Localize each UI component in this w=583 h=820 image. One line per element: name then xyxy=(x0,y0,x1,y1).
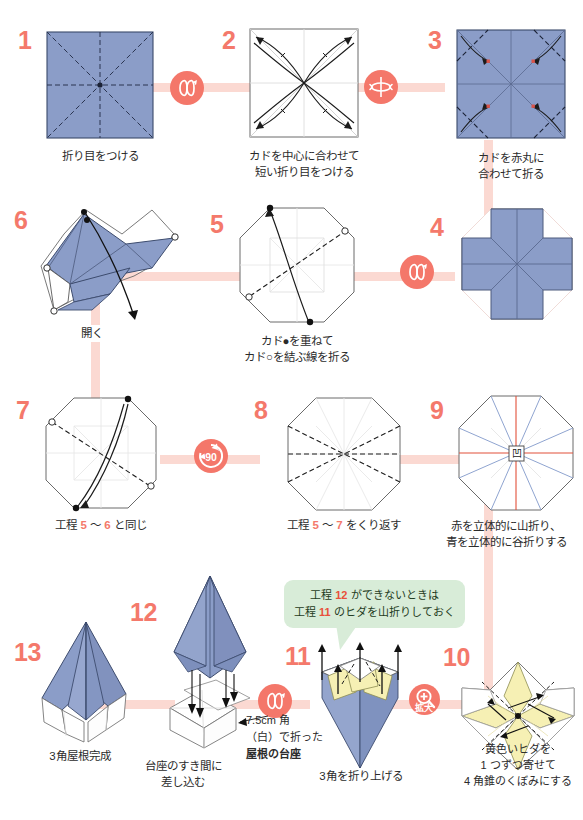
step-number-5: 5 xyxy=(210,212,223,237)
step-7-caption: 工程 5 〜 6 と同じ xyxy=(36,517,166,534)
step-7-figure xyxy=(36,392,166,520)
step-1-figure xyxy=(45,30,155,140)
step-number-6: 6 xyxy=(14,208,27,233)
step-11-caption: 3角を折り上げる xyxy=(296,768,426,785)
diagram-canvas: 1 折り目をつける 2 xyxy=(0,0,583,820)
svg-text:凹: 凹 xyxy=(512,448,522,459)
step-number-9: 9 xyxy=(430,398,443,423)
step-number-8: 8 xyxy=(254,398,267,423)
tip-ref-11: 11 xyxy=(319,606,331,618)
step-8-caption: 工程 5 〜 7 をくり返す xyxy=(268,517,420,534)
badge-turn-over-1-2 xyxy=(170,71,204,105)
tip-callout: 工程 12 ができないときは 工程 11 のヒダを山折りしておく xyxy=(284,580,465,628)
tip-callout-line-2: 工程 11 のヒダを山折りしておく xyxy=(294,604,455,621)
step-8-ref-to: 7 xyxy=(336,519,342,531)
step-5-caption-line-1: カド●を重ねて xyxy=(227,333,367,350)
turn-over-arrows-icon xyxy=(405,260,429,284)
step-4-figure xyxy=(458,205,576,325)
tip-ref-12: 12 xyxy=(335,589,347,601)
step-9-figure: 凹 xyxy=(455,392,577,514)
step-2-caption-line-2: 短い折り目をつける xyxy=(234,164,374,181)
step-3-caption-line-2: 合わせて折る xyxy=(441,166,581,183)
step-5-figure xyxy=(232,200,362,332)
step-6-caption: 開く xyxy=(66,325,118,342)
step-number-4: 4 xyxy=(430,215,443,240)
tip-callout-tail xyxy=(336,624,366,652)
base-note-line-2: （白）で折った xyxy=(246,730,346,746)
step-number-3: 3 xyxy=(428,28,441,53)
step-3-caption-line-1: カドを赤丸に xyxy=(441,150,581,167)
step-7-ref-from: 5 xyxy=(80,519,86,531)
step-7-ref-to: 6 xyxy=(104,519,110,531)
badge-rotate-90-7-8: 90 ° xyxy=(194,439,228,473)
step-9-caption-line-2: 青を立体的に谷折りする xyxy=(431,534,581,551)
base-note-line-1: 7.5cm 角 xyxy=(246,713,346,729)
turn-over-arrows-icon xyxy=(175,76,199,100)
step-10-caption-line-2: 1 つずつ寄せて xyxy=(443,758,583,774)
step-10-caption-line-1: 黄色いヒダを xyxy=(443,742,583,758)
step-2-caption-line-1: カドを中心に合わせて xyxy=(234,148,374,165)
step-8-ref-from: 5 xyxy=(312,519,318,531)
step-10-caption-line-3: 4 角錐のくぼみにする xyxy=(443,774,583,790)
step-number-1: 1 xyxy=(18,28,31,53)
step-2-figure xyxy=(248,27,360,139)
badge-turn-over-4-5 xyxy=(400,255,434,289)
tip-callout-line-1: 工程 12 ができないときは xyxy=(294,587,455,604)
step-6-figure xyxy=(34,198,194,333)
flip-vertical-icon xyxy=(368,74,394,100)
badge-flip-over-2-3 xyxy=(364,70,398,104)
rotate-90-icon: 90 ° xyxy=(196,441,226,471)
step-9-caption-line-1: 赤を立体的に山折り、 xyxy=(431,518,581,535)
step-1-caption: 折り目をつける xyxy=(45,148,155,165)
base-note-line-3: 屋根の台座 xyxy=(246,747,346,763)
step-5-caption-line-2: カド○を結ぶ線を折る xyxy=(227,349,367,366)
step-number-7: 7 xyxy=(16,398,29,423)
step-13-figure xyxy=(20,618,140,746)
step-13-caption: 3角屋根完成 xyxy=(15,748,145,765)
step-3-figure xyxy=(455,28,567,140)
step-8-figure xyxy=(278,392,410,522)
svg-text:90: 90 xyxy=(205,451,217,463)
step-number-2: 2 xyxy=(222,28,235,53)
step-12-caption-line-2: 差し込む xyxy=(118,774,248,791)
